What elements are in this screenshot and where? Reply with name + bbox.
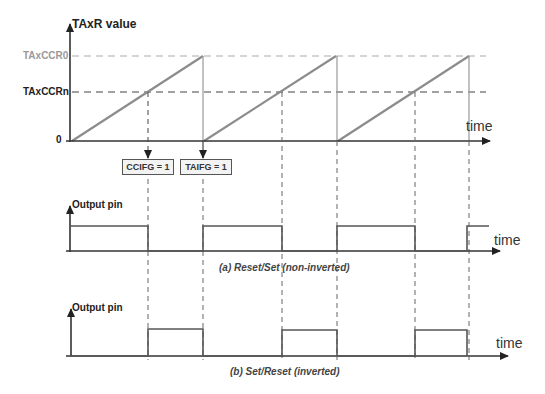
timing-guide-lines — [148, 92, 469, 360]
taifg-flag-box: TAIFG = 1 — [180, 159, 232, 175]
ramp-3 — [338, 56, 469, 141]
ccifg-flag-box: CCIFG = 1 — [122, 159, 174, 175]
output-a-x-axis-label: time — [494, 232, 520, 248]
output-b-waveform — [71, 329, 467, 356]
output-b-x-axis-label: time — [496, 335, 522, 351]
ccr0-label: TAxCCR0 — [23, 50, 68, 61]
output-a-y-axis-label: Output pin — [72, 199, 123, 210]
output-b-y-axis-label: Output pin — [72, 302, 123, 313]
ramp-2 — [204, 56, 336, 141]
output-b-caption: (b) Set/Reset (inverted) — [230, 366, 339, 377]
y-axis-label: TAxR value — [72, 17, 136, 31]
output-a-graph — [66, 206, 500, 252]
output-a-waveform — [70, 226, 489, 251]
timer-output-diagram — [0, 0, 545, 394]
ccrn-label: TAxCCRn — [23, 86, 69, 97]
output-a-caption: (a) Reset/Set (non-inverted) — [219, 262, 350, 273]
x-axis-label: time — [466, 118, 492, 134]
zero-label: 0 — [56, 134, 62, 145]
output-b-graph — [66, 309, 508, 356]
timer-count-graph — [66, 24, 490, 158]
ramp-1 — [72, 56, 203, 141]
